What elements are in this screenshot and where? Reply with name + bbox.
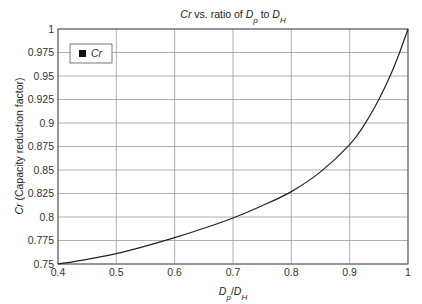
y-tick-label: 0.975 <box>28 46 54 58</box>
label-part: vs. ratio of <box>191 8 245 20</box>
x-tick-label: 0.6 <box>167 266 182 278</box>
label-part: Cr <box>180 8 192 20</box>
chart-title: Cr vs. ratio of Dp to DH <box>180 8 286 25</box>
y-tick-label: 0.85 <box>34 164 55 176</box>
label-part: to <box>258 8 273 20</box>
legend-marker-cr <box>79 50 86 57</box>
y-tick-label: 1 <box>48 23 54 35</box>
y-tick-label: 0.925 <box>28 93 54 105</box>
x-tick-label: 0.8 <box>284 266 299 278</box>
y-tick-label: 0.8 <box>39 211 54 223</box>
legend-label-cr: Cr <box>91 47 103 59</box>
chart: 0.40.50.60.70.80.910.750.7750.80.8250.85… <box>0 0 422 304</box>
y-tick-label: 0.825 <box>28 187 54 199</box>
y-tick-label: 0.875 <box>28 140 54 152</box>
y-tick-label: 0.9 <box>39 117 54 129</box>
x-axis-label: Dp/DH <box>219 285 248 302</box>
label-part: (Capacity reduction factor) <box>13 77 25 203</box>
y-tick-label: 0.95 <box>34 70 55 82</box>
y-axis-label: Cr (Capacity reduction factor) <box>13 77 25 214</box>
y-tick-label: 0.775 <box>28 234 54 246</box>
x-tick-label: 1 <box>405 266 411 278</box>
legend: Cr <box>70 44 112 63</box>
label-part: Cr <box>13 203 25 215</box>
label-part: H <box>280 16 286 25</box>
label-part: H <box>241 293 247 302</box>
grid-layer <box>58 29 408 264</box>
x-tick-label: 0.9 <box>342 266 357 278</box>
x-tick-label: 0.5 <box>109 266 124 278</box>
y-tick-label: 0.75 <box>34 258 55 270</box>
x-tick-label: 0.7 <box>226 266 241 278</box>
